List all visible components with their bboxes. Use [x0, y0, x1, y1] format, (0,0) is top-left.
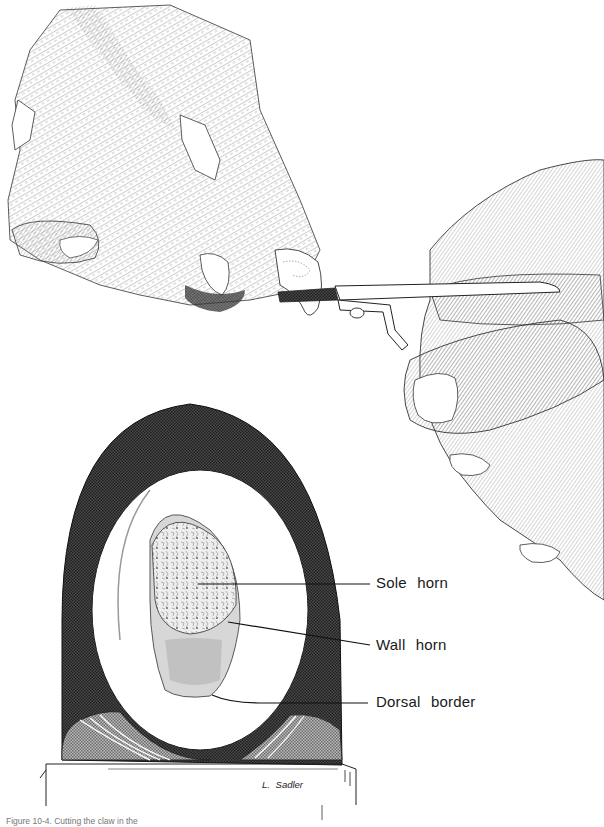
label-wall-horn: Wall horn: [376, 636, 447, 653]
dog-paw-illustration: [8, 5, 322, 315]
label-dorsal-border: Dorsal border: [376, 693, 475, 710]
figure-caption: Figure 10-4. Cutting the claw in the: [6, 816, 138, 826]
hand-with-clippers-illustration: [278, 160, 604, 600]
claw-cross-section-illustration: [40, 404, 356, 806]
illustration-canvas: [0, 0, 604, 827]
figure: Sole horn Wall horn Dorsal border L. Sad…: [0, 0, 604, 827]
artist-signature: L. Sadler: [262, 779, 303, 790]
label-sole-horn: Sole horn: [376, 574, 448, 591]
